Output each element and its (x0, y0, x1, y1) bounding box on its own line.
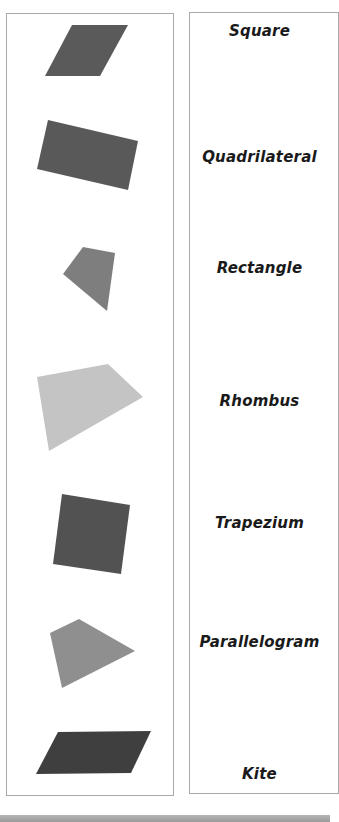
label-rectangle[interactable]: Rectangle (189, 259, 330, 277)
label-trapezium[interactable]: Trapezium (189, 514, 330, 532)
shape-rotated-square[interactable] (53, 494, 130, 574)
label-parallelogram[interactable]: Parallelogram (189, 633, 330, 651)
label-square[interactable]: Square (189, 22, 330, 40)
label-kite[interactable]: Kite (189, 765, 330, 783)
bottom-divider-bar (0, 815, 330, 822)
label-rhombus[interactable]: Rhombus (189, 392, 330, 410)
label-quadrilateral[interactable]: Quadrilateral (189, 148, 330, 166)
